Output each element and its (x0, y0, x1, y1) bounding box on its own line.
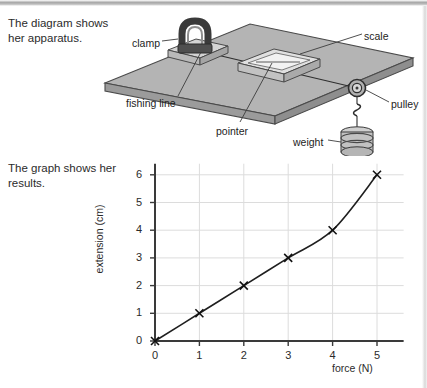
diagram-label-pointer: pointer (216, 125, 248, 137)
chart-x-tick-5: 5 (369, 349, 385, 361)
chart-y-tick-0: 0 (131, 334, 147, 346)
results-chart: 012345 0123456 extension (cm) force (N) (100, 155, 427, 388)
hanging-line-icon (354, 96, 361, 130)
diagram-label-fishing-line: fishing line (126, 97, 176, 109)
chart-x-tick-3: 3 (280, 349, 296, 361)
diagram-label-weight: weight (293, 136, 323, 148)
clamp-icon (178, 21, 212, 53)
leader-clamp (162, 39, 178, 41)
worksheet-page: The diagram shows her apparatus. (0, 0, 427, 388)
chart-y-tick-2: 2 (131, 279, 147, 291)
chart-x-tick-2: 2 (236, 349, 252, 361)
chart-y-tick-4: 4 (131, 223, 147, 235)
diagram-label-clamp: clamp (132, 37, 160, 49)
chart-x-tick-4: 4 (325, 349, 341, 361)
chart-x-tick-1: 1 (191, 349, 207, 361)
chart-y-tick-6: 6 (131, 168, 147, 180)
chart-y-tick-1: 1 (131, 306, 147, 318)
chart-ticks (150, 175, 377, 346)
diagram-label-scale: scale (364, 30, 389, 42)
chart-y-tick-3: 3 (131, 251, 147, 263)
apparatus-svg (0, 6, 427, 156)
chart-y-axis-title: extension (cm) (93, 184, 105, 294)
pulley-icon (349, 80, 366, 97)
leader-weight (328, 140, 341, 142)
chart-x-tick-0: 0 (147, 349, 163, 361)
weight-stack-icon (341, 127, 373, 156)
chart-y-tick-5: 5 (131, 196, 147, 208)
diagram-label-pulley: pulley (391, 98, 418, 110)
chart-x-axis-title: force (N) (332, 362, 373, 374)
apparatus-diagram: clamp scale fishing line pointer pulley … (0, 6, 427, 156)
leader-pulley (366, 90, 389, 102)
